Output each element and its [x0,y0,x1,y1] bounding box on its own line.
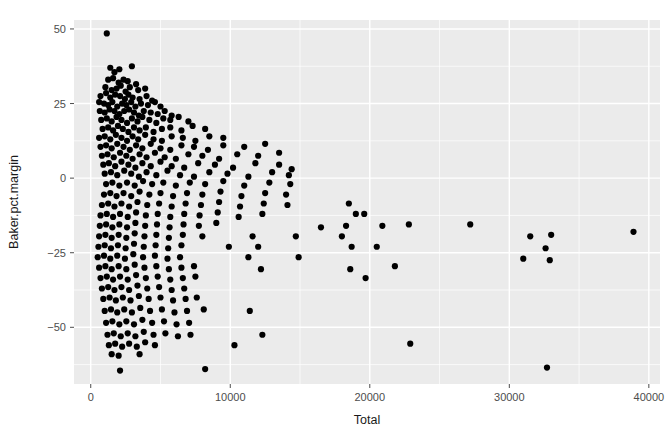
data-point [102,133,108,139]
data-point [220,142,226,148]
data-point [132,230,138,236]
data-point [140,178,146,184]
data-point [102,242,108,248]
data-point [190,123,196,129]
data-point [215,209,221,215]
data-point [102,263,108,269]
data-point [136,293,142,299]
data-point [159,126,165,132]
data-point [237,203,243,209]
x-tick-label: 30000 [494,391,525,403]
data-point [118,83,124,89]
data-point [111,154,117,160]
data-point [269,169,275,175]
data-point [117,367,123,373]
data-point [124,138,130,144]
data-point [157,159,163,165]
data-point [527,233,533,239]
data-point [128,193,134,199]
data-point [178,242,184,248]
data-point [132,165,138,171]
y-tick-label: 25 [54,98,66,110]
data-point [318,224,324,230]
data-point [296,254,302,260]
data-point [102,232,108,238]
data-point [238,193,244,199]
data-point [99,285,105,291]
data-point [124,180,130,186]
data-point [104,30,110,36]
data-point [126,287,132,293]
data-point [180,232,186,238]
x-tick-label: 20000 [354,391,385,403]
data-point [136,127,142,133]
data-point [216,199,222,205]
data-point [542,245,548,251]
data-point [138,100,144,106]
data-point [547,257,553,263]
data-point [224,171,230,177]
data-point [143,275,149,281]
y-tick-label: −25 [47,247,66,259]
data-point [178,142,184,148]
data-point [100,162,106,168]
data-point [169,287,175,293]
data-point [266,180,272,186]
plot-panel [74,20,660,384]
data-point [177,172,183,178]
data-point [128,171,134,177]
data-point [107,256,113,262]
data-point [96,135,102,141]
data-point [104,332,110,338]
data-point [101,253,107,259]
data-point [106,294,112,300]
data-point [353,211,359,217]
data-point [173,182,179,188]
data-point [123,245,129,251]
data-point [129,115,135,121]
data-point [103,142,109,148]
data-point [133,142,139,148]
data-point [181,211,187,217]
data-point [139,145,145,151]
data-point [114,141,120,147]
data-point [120,126,126,132]
data-point [109,235,115,241]
data-point [153,120,159,126]
data-point [191,144,197,150]
data-point [153,263,159,269]
data-point [123,153,129,159]
data-point [134,344,140,350]
data-point [97,212,103,218]
data-point [136,188,142,194]
data-point [176,114,182,120]
data-point [180,135,186,141]
data-point [152,253,158,259]
data-point [100,296,106,302]
data-point [191,263,197,269]
data-point [143,154,149,160]
data-point [148,141,154,147]
data-point [220,178,226,184]
data-point [106,342,112,348]
data-point [343,223,349,229]
data-point [284,202,290,208]
data-point [162,330,168,336]
data-point [125,276,131,282]
data-point [135,87,141,93]
data-point [153,242,159,248]
data-point [127,84,133,90]
x-tick-label: 0 [88,391,94,403]
data-point [117,273,123,279]
data-point [136,151,142,157]
data-point [181,165,187,171]
data-point [139,160,145,166]
data-point [159,306,165,312]
data-point [112,341,118,347]
data-point [106,160,112,166]
data-point [111,330,117,336]
data-point [114,253,120,259]
data-point [141,265,147,271]
data-point [109,99,115,105]
data-point [120,144,126,150]
